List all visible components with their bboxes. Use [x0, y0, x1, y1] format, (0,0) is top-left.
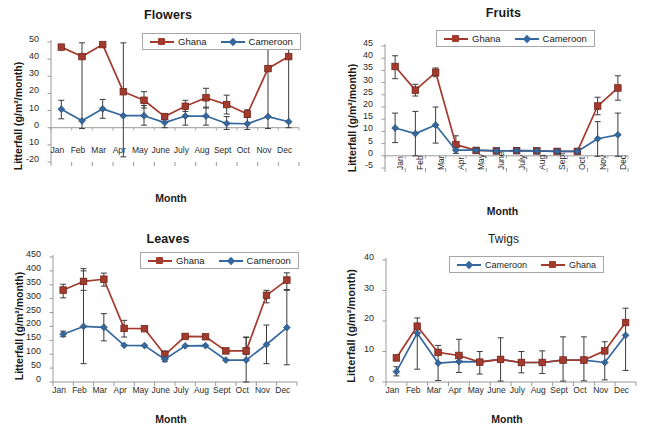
legend-label-cameroon: Cameroon	[543, 33, 587, 44]
y-tick-label: 150	[0, 332, 46, 342]
legend-leaves: Ghana Cameroon	[140, 252, 299, 269]
y-tick-label: 10	[336, 344, 379, 354]
y-tick-label: 10	[336, 123, 378, 133]
y-tick-label: 10	[0, 137, 44, 147]
legend-item-cameroon[interactable]: Cameroon	[219, 255, 291, 266]
y-tick-label: 30	[336, 283, 379, 293]
plot-area-twigs	[382, 258, 632, 380]
y-tick-label: 40	[336, 252, 379, 262]
chart-title-flowers: Flowers	[0, 8, 336, 22]
x-axis-label-twigs: Month	[382, 413, 632, 425]
chart-title-leaves: Leaves	[0, 232, 336, 246]
y-tick-label: 0	[336, 148, 378, 158]
chart-title-fruits: Fruits	[336, 6, 671, 20]
y-tick-label: 0	[336, 374, 379, 384]
y-tick-label: 400	[0, 263, 46, 273]
y-tick-label: 200	[0, 318, 46, 328]
chart-title-twigs: Twigs	[336, 232, 671, 246]
x-axis-label-fruits: Month	[381, 205, 624, 217]
y-tick-label: 0	[0, 374, 46, 384]
legend-marker-square-icon	[541, 260, 565, 270]
legend-marker-diamond-icon	[221, 37, 245, 47]
plot-area-leaves	[49, 255, 293, 380]
chart-panel-fruits: Fruits Litterfall (g/m²/month) Month Gha…	[336, 0, 671, 228]
plot-area-flowers	[47, 40, 295, 160]
legend-marker-square-icon	[148, 256, 172, 266]
legend-marker-diamond-icon	[515, 34, 539, 44]
legend-label-ghana: Ghana	[176, 255, 205, 266]
legend-fruits: Ghana Cameroon	[436, 30, 595, 47]
y-tick-label: 450	[0, 249, 46, 259]
y-tick-label: 45	[336, 38, 378, 48]
y-tick-label: -5	[336, 160, 378, 170]
y-tick-label: 20	[336, 313, 379, 323]
y-tick-label: 15	[336, 111, 378, 121]
chart-panel-flowers: Flowers Litterfall (g/m²/month) Month Gh…	[0, 0, 336, 228]
y-tick-label: 250	[0, 305, 46, 315]
y-tick-label: 20	[0, 85, 44, 95]
legend-item-ghana[interactable]: Ghana	[444, 33, 501, 44]
y-tick-label: 100	[0, 346, 46, 356]
legend-item-cameroon[interactable]: Cameroon	[221, 36, 293, 47]
plot-area-fruits	[381, 44, 624, 166]
legend-item-ghana[interactable]: Ghana	[541, 260, 596, 270]
y-tick-label: 30	[0, 68, 44, 78]
legend-flowers: Ghana Cameroon	[142, 33, 301, 50]
y-tick-label: 0	[0, 120, 44, 130]
legend-label-cameroon: Cameroon	[249, 36, 293, 47]
legend-item-cameroon[interactable]: Cameroon	[515, 33, 587, 44]
y-tick-label: 20	[336, 99, 378, 109]
y-tick-label: 50	[0, 34, 44, 44]
y-tick-label: 5	[336, 136, 378, 146]
legend-label-cameroon: Cameroon	[485, 260, 527, 270]
y-tick-label: 40	[0, 51, 44, 61]
x-axis-label-leaves: Month	[49, 413, 293, 425]
legend-marker-square-icon	[444, 34, 468, 44]
y-tick-label: 50	[0, 360, 46, 370]
legend-label-ghana: Ghana	[569, 260, 596, 270]
legend-marker-diamond-icon	[457, 260, 481, 270]
y-tick-label: 350	[0, 277, 46, 287]
chart-panel-twigs: Twigs Litterfall (g/m²/month) Month Came…	[336, 228, 671, 441]
legend-label-ghana: Ghana	[178, 36, 207, 47]
x-tick-label: Dec	[270, 145, 299, 155]
legend-item-cameroon[interactable]: Cameroon	[457, 260, 527, 270]
y-tick-label: 30	[336, 75, 378, 85]
y-tick-label: 40	[336, 50, 378, 60]
chart-panel-leaves: Leaves Litterfall (g/m²/month) Month Gha…	[0, 228, 336, 441]
litterfall-figure: Flowers Litterfall (g/m²/month) Month Gh…	[0, 0, 671, 441]
y-tick-label: -20	[0, 154, 44, 164]
y-tick-label: 25	[336, 87, 378, 97]
y-tick-label: 35	[336, 62, 378, 72]
y-tick-label: 10	[0, 103, 44, 113]
x-tick-label: Dec	[269, 385, 297, 395]
y-tick-label: 300	[0, 291, 46, 301]
legend-item-ghana[interactable]: Ghana	[148, 255, 205, 266]
legend-marker-diamond-icon	[219, 256, 243, 266]
legend-twigs: Cameroon Ghana	[449, 256, 604, 273]
legend-label-cameroon: Cameroon	[247, 255, 291, 266]
x-tick-label: Dec	[607, 385, 636, 395]
legend-item-ghana[interactable]: Ghana	[150, 36, 207, 47]
x-axis-label-flowers: Month	[47, 192, 295, 204]
legend-label-ghana: Ghana	[472, 33, 501, 44]
legend-marker-square-icon	[150, 37, 174, 47]
